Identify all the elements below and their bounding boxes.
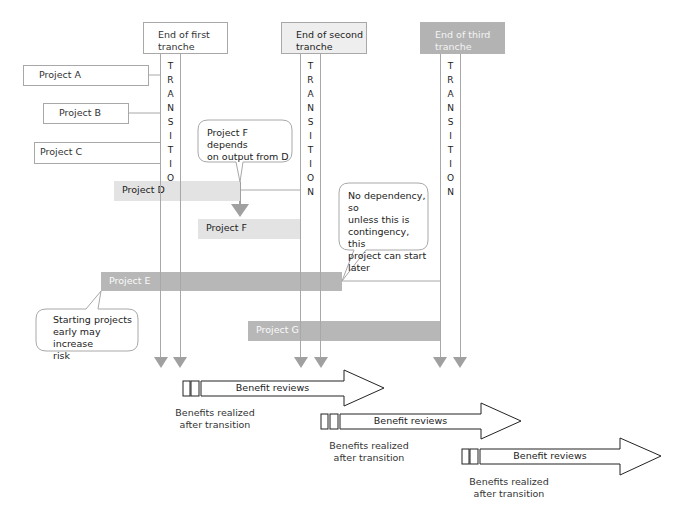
benefit-arrow-3-label: Benefit reviews: [480, 450, 620, 461]
benefit-arrows: [0, 0, 684, 509]
benefits-realized-label-2: Benefits realized after transition: [314, 440, 424, 464]
benefits-realized-label-3: Benefits realized after transition: [454, 476, 564, 500]
benefit-arrow-2-label: Benefit reviews: [340, 415, 481, 426]
benefits-realized-label-1: Benefits realized after transition: [160, 407, 270, 431]
benefit-arrow-1-label: Benefit reviews: [201, 382, 344, 393]
